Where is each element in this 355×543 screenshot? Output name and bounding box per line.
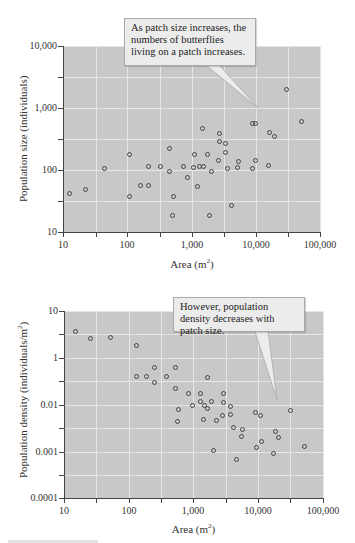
x-tick-label: 100,000	[298, 506, 348, 516]
data-point	[205, 375, 210, 380]
data-point	[209, 399, 214, 404]
x-axis-title-text: Area (m	[172, 523, 208, 535]
data-point	[211, 448, 216, 453]
data-point	[273, 429, 278, 434]
data-point	[173, 365, 178, 370]
gridline-vertical	[323, 311, 324, 498]
data-point	[201, 417, 206, 422]
data-point	[254, 445, 259, 450]
gridline-horizontal	[64, 358, 323, 359]
data-point	[288, 408, 293, 413]
data-point	[88, 336, 93, 341]
x-tick	[323, 498, 324, 503]
data-point	[176, 407, 181, 412]
data-point	[214, 418, 219, 423]
data-point	[134, 374, 139, 379]
data-point	[221, 400, 226, 405]
data-point	[173, 386, 178, 391]
data-point	[239, 434, 244, 439]
gridline-horizontal	[64, 381, 323, 382]
data-point	[231, 425, 236, 430]
y-tick-label: 0.0001	[8, 493, 58, 503]
data-point	[108, 335, 113, 340]
gridline-horizontal	[64, 475, 323, 476]
data-point	[186, 391, 191, 396]
data-point	[152, 365, 157, 370]
gridline-horizontal	[64, 452, 323, 453]
y-axis-title: Population density (individuals/m2)	[16, 322, 29, 478]
data-point	[220, 413, 225, 418]
data-point	[205, 406, 210, 411]
y-axis-line	[64, 311, 65, 499]
data-point	[258, 413, 263, 418]
x-tick-label: 1,000	[168, 506, 218, 516]
data-point	[253, 410, 258, 415]
y-tick-label: 10	[8, 306, 58, 316]
y-axis-title-text: Population density (individuals/m	[17, 329, 29, 478]
data-point	[228, 412, 233, 417]
data-point	[198, 391, 203, 396]
data-point	[234, 457, 239, 462]
figure-caption-cropped	[8, 536, 98, 543]
data-point	[190, 403, 195, 408]
data-point	[144, 374, 149, 379]
data-point	[164, 374, 169, 379]
x-tick-label: 100	[104, 506, 154, 516]
data-point	[302, 444, 307, 449]
annotation-callout: However, population density decreases wi…	[173, 297, 305, 332]
x-axis-line	[64, 498, 323, 499]
x-tick-label: 10	[39, 506, 89, 516]
data-point	[221, 391, 226, 396]
gridline-horizontal	[64, 428, 323, 429]
data-point	[175, 419, 180, 424]
data-point	[276, 435, 281, 440]
population-density-chart: 101001,00010,000100,0001010.010.0010.000…	[0, 0, 355, 543]
data-point	[73, 329, 78, 334]
data-point	[259, 439, 264, 444]
x-axis-title: Area (m2)	[134, 522, 254, 535]
data-point	[152, 380, 157, 385]
data-point	[271, 451, 276, 456]
data-point	[228, 404, 233, 409]
data-point	[134, 343, 139, 348]
x-tick-label: 10,000	[233, 506, 283, 516]
data-point	[240, 427, 245, 432]
